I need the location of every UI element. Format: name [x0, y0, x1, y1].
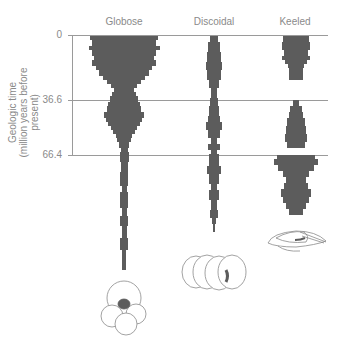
spindle-diagram: Globose Discoidal Keeled 0 36.6 66.4 Geo…	[0, 0, 342, 345]
globose-foram-icon	[101, 281, 146, 335]
diagram-graphics	[0, 0, 342, 345]
spindle-discoidal	[206, 36, 222, 232]
spindle-globose	[89, 36, 160, 270]
keeled-foram-icon	[268, 231, 326, 251]
spindle-keeled	[274, 36, 318, 215]
discoidal-foram-icon	[182, 255, 246, 290]
